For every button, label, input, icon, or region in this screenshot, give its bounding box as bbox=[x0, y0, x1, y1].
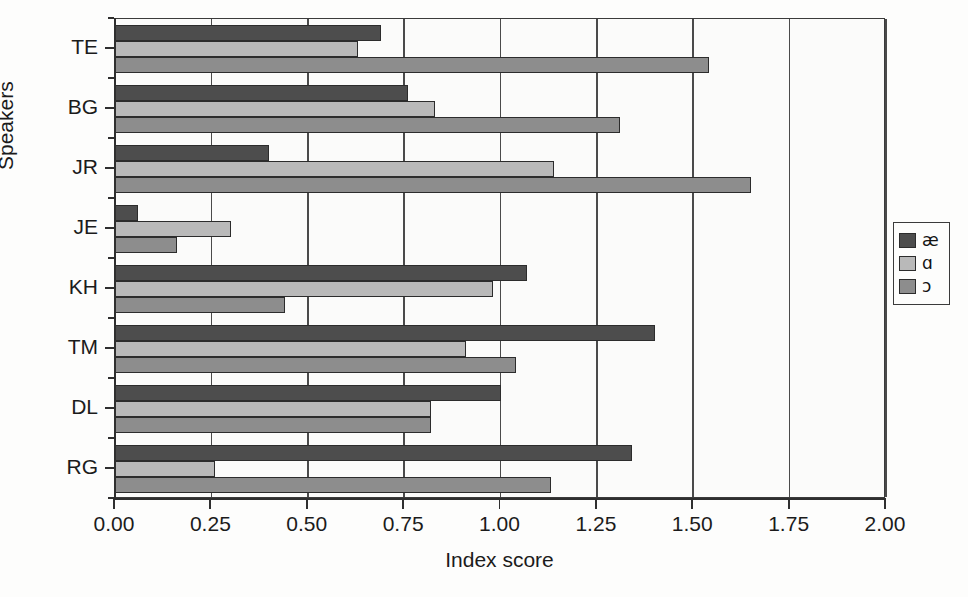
y-axis-tick bbox=[105, 467, 114, 469]
y-axis-minor-tick bbox=[108, 317, 114, 319]
y-axis-minor-tick bbox=[108, 437, 114, 439]
x-axis-tick-label: 1.00 bbox=[455, 512, 545, 536]
y-axis-line bbox=[114, 18, 116, 498]
bar-group bbox=[115, 145, 884, 193]
y-axis-label-je: JE bbox=[36, 215, 98, 239]
y-axis-minor-tick bbox=[108, 17, 114, 19]
bar-group bbox=[115, 445, 884, 493]
bar-je-ae[interactable] bbox=[115, 205, 138, 221]
x-axis-tick bbox=[402, 498, 404, 509]
bar-rg-oo[interactable] bbox=[115, 477, 551, 493]
y-axis-tick bbox=[105, 287, 114, 289]
y-axis-label-dl: DL bbox=[36, 395, 98, 419]
x-axis-tick-label: 0.75 bbox=[358, 512, 448, 536]
y-axis-tick bbox=[105, 227, 114, 229]
bar-te-aa[interactable] bbox=[115, 41, 358, 57]
x-axis-tick bbox=[884, 498, 886, 509]
y-axis-minor-tick bbox=[108, 377, 114, 379]
legend-label-ae: æ bbox=[922, 232, 939, 249]
bar-tm-ae[interactable] bbox=[115, 325, 655, 341]
bar-jr-aa[interactable] bbox=[115, 161, 554, 177]
bar-kh-aa[interactable] bbox=[115, 281, 493, 297]
x-axis-tick-label: 0.25 bbox=[165, 512, 255, 536]
bar-tm-aa[interactable] bbox=[115, 341, 466, 357]
bar-bg-oo[interactable] bbox=[115, 117, 620, 133]
legend: æ ɑ ɔ bbox=[893, 222, 950, 305]
x-axis-tick-label: 0.50 bbox=[262, 512, 352, 536]
bar-te-ae[interactable] bbox=[115, 25, 381, 41]
y-axis-tick bbox=[105, 167, 114, 169]
legend-label-aa: ɑ bbox=[922, 255, 933, 272]
y-axis-label-jr: JR bbox=[36, 155, 98, 179]
x-axis-tick bbox=[788, 498, 790, 509]
bar-je-aa[interactable] bbox=[115, 221, 231, 237]
x-axis-tick-label: 0.00 bbox=[69, 512, 159, 536]
bar-dl-ae[interactable] bbox=[115, 385, 501, 401]
chart-plot-area bbox=[114, 18, 885, 498]
y-axis-label-kh: KH bbox=[36, 275, 98, 299]
y-axis-title: Speakers bbox=[0, 81, 18, 170]
x-axis-tick-label: 1.25 bbox=[551, 512, 641, 536]
y-axis-label-te: TE bbox=[36, 35, 98, 59]
bar-group bbox=[115, 85, 884, 133]
x-axis-tick bbox=[595, 498, 597, 509]
bar-group bbox=[115, 385, 884, 433]
x-axis-tick bbox=[691, 498, 693, 509]
bar-te-oo[interactable] bbox=[115, 57, 709, 73]
bar-bg-aa[interactable] bbox=[115, 101, 435, 117]
legend-item[interactable]: æ bbox=[899, 229, 944, 252]
bar-rg-ae[interactable] bbox=[115, 445, 632, 461]
x-gridline bbox=[885, 19, 887, 497]
x-axis-tick bbox=[209, 498, 211, 509]
legend-item[interactable]: ɑ bbox=[899, 252, 944, 275]
x-axis-tick-label: 2.00 bbox=[840, 512, 930, 536]
x-axis-title: Index score bbox=[114, 548, 885, 572]
bar-bg-ae[interactable] bbox=[115, 85, 408, 101]
y-axis-minor-tick bbox=[108, 197, 114, 199]
x-axis-tick-label: 1.75 bbox=[744, 512, 834, 536]
x-axis-tick bbox=[499, 498, 501, 509]
y-axis-minor-tick bbox=[108, 257, 114, 259]
legend-label-oo: ɔ bbox=[922, 278, 931, 295]
y-axis-minor-tick bbox=[108, 77, 114, 79]
bar-group bbox=[115, 325, 884, 373]
bar-group bbox=[115, 25, 884, 73]
x-axis-tick bbox=[113, 498, 115, 509]
bar-rg-aa[interactable] bbox=[115, 461, 215, 477]
y-axis-minor-tick bbox=[108, 137, 114, 139]
bar-tm-oo[interactable] bbox=[115, 357, 516, 373]
x-axis-tick-label: 1.50 bbox=[647, 512, 737, 536]
y-axis-label-rg: RG bbox=[36, 455, 98, 479]
bar-kh-ae[interactable] bbox=[115, 265, 527, 281]
bar-jr-oo[interactable] bbox=[115, 177, 751, 193]
bar-jr-ae[interactable] bbox=[115, 145, 269, 161]
bar-group bbox=[115, 265, 884, 313]
y-axis-label-tm: TM bbox=[36, 335, 98, 359]
y-axis-tick bbox=[105, 407, 114, 409]
legend-swatch-ae bbox=[899, 233, 916, 248]
y-axis-tick bbox=[105, 47, 114, 49]
y-axis-label-bg: BG bbox=[36, 95, 98, 119]
y-axis-minor-tick bbox=[108, 497, 114, 499]
bar-group bbox=[115, 205, 884, 253]
y-axis-tick bbox=[105, 107, 114, 109]
legend-swatch-aa bbox=[899, 256, 916, 271]
legend-item[interactable]: ɔ bbox=[899, 275, 944, 298]
bar-je-oo[interactable] bbox=[115, 237, 177, 253]
legend-swatch-oo bbox=[899, 279, 916, 294]
y-axis-tick bbox=[105, 347, 114, 349]
bar-kh-oo[interactable] bbox=[115, 297, 285, 313]
x-axis-tick bbox=[306, 498, 308, 509]
bar-dl-oo[interactable] bbox=[115, 417, 431, 433]
bar-dl-aa[interactable] bbox=[115, 401, 431, 417]
